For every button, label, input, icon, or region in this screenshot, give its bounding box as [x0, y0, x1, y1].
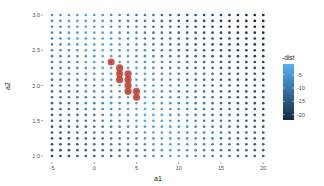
grid-point: [76, 131, 79, 134]
grid-point: [84, 31, 87, 34]
grid-point: [144, 84, 147, 87]
grid-point: [135, 72, 138, 75]
grid-point: [169, 55, 172, 58]
grid-point: [110, 67, 113, 70]
grid-point: [59, 84, 62, 87]
grid-point: [253, 102, 256, 105]
grid-point: [228, 61, 231, 64]
grid-point: [144, 155, 147, 158]
grid-point: [253, 84, 256, 87]
grid-point: [253, 43, 256, 46]
grid-point: [186, 31, 189, 34]
grid-point: [220, 125, 223, 128]
grid-point: [127, 149, 130, 152]
grid-point: [177, 102, 180, 105]
grid-point: [135, 114, 138, 117]
grid-point: [110, 108, 113, 111]
grid-point: [211, 61, 214, 64]
grid-point: [228, 143, 231, 146]
grid-point: [262, 125, 265, 128]
grid-point: [186, 67, 189, 70]
grid-point: [194, 108, 197, 111]
grid-point: [68, 20, 71, 23]
grid-point: [194, 119, 197, 122]
grid-point: [220, 55, 223, 58]
grid-point: [245, 155, 248, 158]
grid-point: [253, 67, 256, 70]
grid-point: [203, 143, 206, 146]
grid-point: [51, 102, 54, 105]
grid-point: [237, 72, 240, 75]
grid-point: [101, 131, 104, 134]
grid-point: [127, 114, 130, 117]
grid-point: [262, 61, 265, 64]
grid-point: [186, 149, 189, 152]
grid-point: [118, 125, 121, 128]
grid-point: [161, 90, 164, 93]
grid-point: [127, 14, 130, 17]
grid-point: [169, 137, 172, 140]
grid-point: [93, 137, 96, 140]
grid-point: [169, 61, 172, 64]
grid-point: [110, 55, 113, 58]
grid-point: [84, 25, 87, 28]
grid-point: [135, 61, 138, 64]
grid-point: [59, 90, 62, 93]
grid-point: [76, 137, 79, 140]
grid-point: [245, 72, 248, 75]
grid-point: [144, 119, 147, 122]
grid-point: [101, 43, 104, 46]
grid-point: [220, 67, 223, 70]
grid-point: [169, 114, 172, 117]
grid-point: [59, 20, 62, 23]
grid-point: [59, 43, 62, 46]
grid-point: [144, 125, 147, 128]
grid-point: [101, 155, 104, 158]
grid-point: [76, 37, 79, 40]
grid-point: [245, 143, 248, 146]
grid-point: [203, 125, 206, 128]
grid-point: [59, 137, 62, 140]
grid-point: [152, 143, 155, 146]
grid-point: [118, 114, 121, 117]
grid-point: [68, 31, 71, 34]
grid-point: [253, 143, 256, 146]
grid-point: [186, 78, 189, 81]
grid-point: [84, 67, 87, 70]
grid-point: [228, 78, 231, 81]
grid-point: [220, 37, 223, 40]
grid-point: [194, 49, 197, 52]
x-tick-label: 10: [176, 165, 182, 171]
grid-point: [93, 102, 96, 105]
grid-point: [203, 20, 206, 23]
grid-point: [211, 96, 214, 99]
grid-point: [220, 31, 223, 34]
grid-point: [161, 108, 164, 111]
grid-point: [51, 131, 54, 134]
grid-point: [177, 14, 180, 17]
grid-point: [228, 43, 231, 46]
grid-point: [93, 31, 96, 34]
grid-point: [144, 78, 147, 81]
grid-point: [220, 143, 223, 146]
grid-point: [169, 37, 172, 40]
grid-point: [237, 37, 240, 40]
grid-point: [228, 96, 231, 99]
grid-point: [51, 78, 54, 81]
grid-point: [186, 90, 189, 93]
grid-point: [93, 67, 96, 70]
grid-point: [237, 114, 240, 117]
grid-point: [59, 114, 62, 117]
grid-point: [211, 119, 214, 122]
grid-point: [76, 31, 79, 34]
grid-point: [161, 125, 164, 128]
grid-point: [186, 119, 189, 122]
grid-point: [144, 31, 147, 34]
grid-point: [194, 125, 197, 128]
highlighted-point: [124, 88, 131, 95]
grid-point: [51, 31, 54, 34]
grid-point: [161, 31, 164, 34]
grid-point: [177, 137, 180, 140]
grid-point: [211, 67, 214, 70]
grid-point: [84, 14, 87, 17]
